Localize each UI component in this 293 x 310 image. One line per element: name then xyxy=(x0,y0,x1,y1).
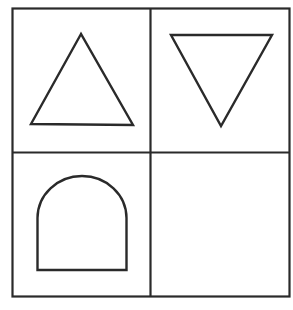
shape-grid-diagram xyxy=(0,0,293,310)
triangle-up-shape xyxy=(31,34,133,125)
grid xyxy=(13,9,290,297)
arch-shape xyxy=(38,176,127,270)
cell-top-right xyxy=(171,35,272,126)
triangle-down-shape xyxy=(171,35,272,126)
cell-top-left xyxy=(31,34,133,125)
cell-bottom-left xyxy=(38,176,127,270)
